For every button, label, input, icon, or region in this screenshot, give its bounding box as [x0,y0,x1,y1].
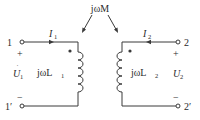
terminal-2-label: 2 [184,37,189,48]
current-arrow-i2-icon [146,40,151,44]
polarity-dot-right-icon [128,49,131,52]
left-inductor-sub: 1 [61,72,64,79]
right-plus-sign: + [173,48,179,59]
left-minus-sign: − [17,92,23,103]
current-arrow-i1-icon [49,40,54,44]
left-plus-sign: + [17,48,23,59]
right-inductor-sub: 2 [155,72,158,79]
right-current-sub: 2 [148,33,151,40]
terminal-2-icon [176,40,180,44]
left-voltage-sub: 1 [20,73,23,80]
mutual-inductance-label: jωM [90,3,109,14]
left-current-label: I [48,28,53,39]
coupled-inductor-diagram: jωM 1 + U 1 · 1′ − I 1 jωL 1 2 + U 2 2′ … [0,0,200,120]
left-current-sub: 1 [54,33,57,40]
polarity-dot-left-icon [68,49,71,52]
right-minus-sign: − [173,92,179,103]
right-current-label: I [142,28,147,39]
terminal-1prime-icon [20,104,24,108]
terminal-2prime-icon [176,104,180,108]
left-voltage-dot-icon: · [17,63,19,69]
right-inductor-label: jωL [130,67,146,78]
right-voltage-sub: 2 [180,73,183,80]
terminal-1-icon [20,40,24,44]
left-inductor-label: jωL [36,67,52,78]
left-inductor-coil [78,52,83,92]
terminal-1-label: 1 [7,37,12,48]
right-inductor-coil [117,52,122,92]
terminal-2prime-label: 2′ [184,101,191,112]
terminal-1prime-label: 1′ [5,101,12,112]
